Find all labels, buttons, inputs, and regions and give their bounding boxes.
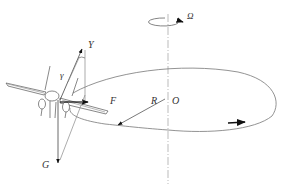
radius-line bbox=[118, 99, 165, 125]
bank-angle-arc bbox=[78, 57, 85, 58]
radius-label: R bbox=[150, 95, 157, 106]
turn-diagram: Ω bbox=[0, 0, 290, 189]
bank-angle-label: γ bbox=[60, 70, 64, 80]
centripetal-force-label: F bbox=[109, 95, 117, 106]
angular-velocity-indicator bbox=[148, 18, 183, 26]
center-label: O bbox=[172, 95, 179, 106]
diagram-svg: Ω bbox=[0, 0, 290, 189]
omega-label: Ω bbox=[187, 11, 194, 21]
gravity-label: G bbox=[42, 159, 49, 170]
lift-label: Y bbox=[88, 39, 95, 50]
aircraft bbox=[6, 66, 108, 118]
orbit-direction-arrow bbox=[228, 122, 245, 123]
